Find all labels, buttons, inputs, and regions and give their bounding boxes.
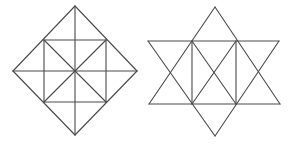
star-segment: [215, 7, 280, 104]
geometry-diagram: [0, 0, 290, 146]
star-segment: [148, 41, 215, 136]
square-in-diamond-figure: [13, 6, 137, 135]
six-point-star-figure: [148, 7, 280, 136]
